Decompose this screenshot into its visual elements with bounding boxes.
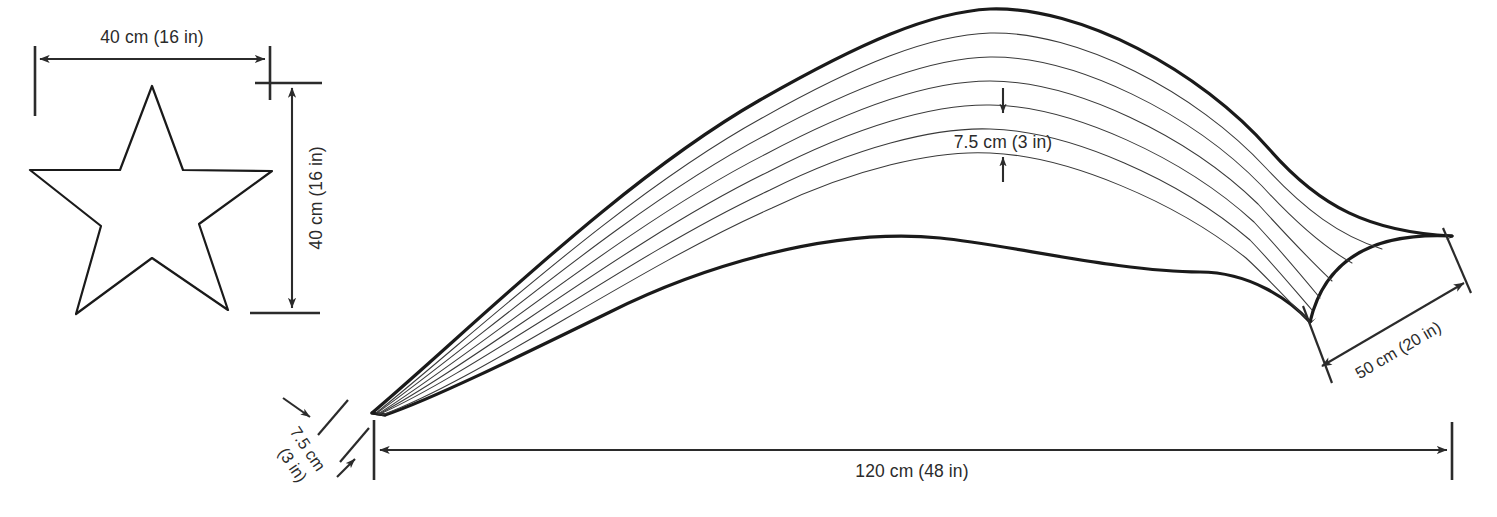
star-width-label: 40 cm (16 in) xyxy=(100,27,203,47)
arch-thickness-label: 7.5 cm (3 in) xyxy=(954,132,1053,152)
technical-drawing-canvas: 40 cm (16 in) 40 cm (16 in) 7.5 cm (3 in… xyxy=(0,0,1497,517)
star-height-label: 40 cm (16 in) xyxy=(306,146,326,249)
arch-span-label: 120 cm (48 in) xyxy=(855,461,968,481)
